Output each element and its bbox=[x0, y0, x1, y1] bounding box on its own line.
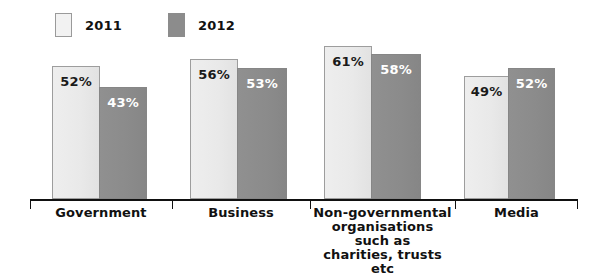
category-label-ngo: Non-governmental organisations such as c… bbox=[310, 206, 455, 275]
category-label-line: such as bbox=[310, 234, 455, 248]
bar-business-2012: 53% bbox=[237, 68, 287, 199]
category-label-line: Government bbox=[30, 206, 172, 220]
bar-ngo-2011: 61% bbox=[324, 46, 372, 199]
bar-value-label: 52% bbox=[509, 76, 554, 91]
bar-business-2011: 56% bbox=[190, 59, 238, 199]
category-label-line: Business bbox=[172, 206, 310, 220]
bar-value-label: 58% bbox=[372, 62, 420, 77]
bar-government-2012: 43% bbox=[99, 87, 147, 199]
category-label-line: charities, trusts etc bbox=[310, 248, 455, 275]
bar-ngo-2012: 58% bbox=[371, 54, 421, 199]
grouped-bar-chart: 2011 2012 52% 43% 56% 53% 61% 58% bbox=[0, 0, 608, 275]
category-label-media: Media bbox=[455, 206, 578, 220]
bar-value-label: 52% bbox=[53, 74, 99, 89]
bar-value-label: 43% bbox=[100, 95, 146, 110]
category-label-line: Media bbox=[455, 206, 578, 220]
plot-area: 52% 43% 56% 53% 61% 58% 49% 52% bbox=[0, 0, 608, 200]
bar-media-2012: 52% bbox=[508, 68, 555, 199]
bar-media-2011: 49% bbox=[464, 76, 509, 199]
category-label-line: Non-governmental bbox=[310, 206, 455, 220]
category-label-government: Government bbox=[30, 206, 172, 220]
bar-value-label: 61% bbox=[325, 54, 371, 69]
bar-government-2011: 52% bbox=[52, 66, 100, 199]
category-label-business: Business bbox=[172, 206, 310, 220]
bar-value-label: 56% bbox=[191, 67, 237, 82]
category-label-line: organisations bbox=[310, 220, 455, 234]
bar-value-label: 53% bbox=[238, 76, 286, 91]
bar-value-label: 49% bbox=[465, 84, 508, 99]
x-axis-line bbox=[30, 199, 578, 201]
